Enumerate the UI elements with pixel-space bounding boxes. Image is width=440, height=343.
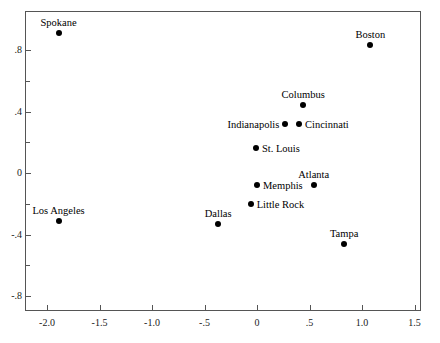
data-point (215, 221, 221, 227)
y-axis-tick-label: .4 (0, 106, 22, 117)
data-point-label: Dallas (205, 208, 232, 219)
x-axis-tick-label: 1.5 (395, 317, 435, 328)
plot-frame-top-spine (25, 11, 420, 12)
data-point-label: Los Angeles (32, 205, 84, 216)
x-axis-tick (257, 305, 258, 311)
data-point-label: Cincinnati (305, 118, 349, 129)
data-point (296, 121, 302, 127)
data-point-label: Indianapolis (227, 118, 279, 129)
x-axis-tick (152, 305, 153, 311)
data-point-label: Columbus (282, 89, 325, 100)
y-axis-minor-tick (25, 81, 30, 82)
y-axis-tick (25, 296, 31, 297)
y-axis-tick (25, 50, 31, 51)
y-axis-tick-label: -.8 (0, 290, 22, 301)
data-point-label: St. Louis (262, 143, 300, 154)
x-axis-tick-label: -.5 (185, 317, 225, 328)
scatter-plot: -2.0-1.5-1.0-.50.51.01.5 .8.40-.4-.8 Spo… (0, 0, 440, 343)
x-axis-tick-label: -1.5 (80, 317, 120, 328)
y-axis-minor-tick (25, 265, 30, 266)
x-axis-tick (310, 305, 311, 311)
data-point (56, 30, 62, 36)
plot-frame-right-spine (420, 11, 421, 311)
data-point-label: Spokane (40, 17, 76, 28)
data-point (341, 241, 347, 247)
x-axis-tick-label: 0 (237, 317, 277, 328)
y-axis-tick-label: .8 (0, 44, 22, 55)
y-axis-tick-label: 0 (0, 167, 22, 178)
data-point-label: Memphis (263, 180, 303, 191)
x-axis-tick-label: -1.0 (132, 317, 172, 328)
y-axis-tick-label: -.4 (0, 229, 22, 240)
data-point-label: Atlanta (298, 169, 329, 180)
data-point (56, 218, 62, 224)
x-axis-tick (362, 305, 363, 311)
plot-frame (25, 11, 420, 311)
x-axis-tick (415, 305, 416, 311)
y-axis-tick (25, 235, 31, 236)
x-axis-tick (100, 305, 101, 311)
data-point-label: Little Rock (257, 198, 305, 209)
x-axis-tick (205, 305, 206, 311)
y-axis-tick (25, 112, 31, 113)
x-axis-tick-label: .5 (290, 317, 330, 328)
y-axis-minor-tick (25, 142, 30, 143)
data-point (248, 201, 254, 207)
data-point-label: Boston (356, 29, 386, 40)
y-axis-minor-tick (25, 204, 30, 205)
x-axis-tick-label: 1.0 (342, 317, 382, 328)
x-axis-tick (47, 305, 48, 311)
data-point-label: Tampa (330, 228, 358, 239)
data-point (311, 182, 317, 188)
y-axis-tick (25, 173, 31, 174)
x-axis-tick-label: -2.0 (27, 317, 67, 328)
